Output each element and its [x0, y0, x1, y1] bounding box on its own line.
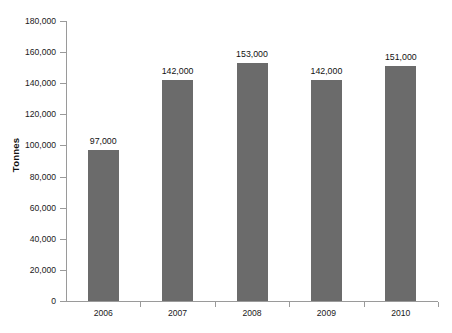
y-axis-tick-mark — [60, 177, 66, 178]
x-axis-tick-mark — [364, 302, 365, 307]
x-axis-tick-label: 2010 — [364, 309, 438, 318]
y-axis-tick-label: 0 — [4, 297, 56, 306]
y-axis-tick-mark — [60, 239, 66, 240]
y-axis-tick-label: 180,000 — [4, 17, 56, 26]
y-axis-tick-mark — [60, 83, 66, 84]
y-axis-tick-label: 60,000 — [4, 204, 56, 213]
bar-value-label: 142,000 — [289, 67, 363, 76]
y-axis-tick-label: 120,000 — [4, 110, 56, 119]
bar — [237, 63, 268, 301]
x-axis-tick-label: 2006 — [66, 309, 140, 318]
x-axis-tick-mark — [140, 302, 141, 307]
y-axis-line — [66, 21, 67, 302]
y-axis-tick-label: 100,000 — [4, 141, 56, 150]
bar — [88, 150, 119, 301]
y-axis-tick-label: 140,000 — [4, 79, 56, 88]
y-axis-tick-mark — [60, 270, 66, 271]
bar-value-label: 153,000 — [215, 50, 289, 59]
bar-chart: Tonnes 020,00040,00060,00080,000100,0001… — [0, 0, 452, 333]
y-axis-tick-label: 160,000 — [4, 48, 56, 57]
x-axis-line — [66, 301, 438, 302]
x-axis-tick-mark — [438, 302, 439, 307]
y-axis-tick-mark — [60, 52, 66, 53]
y-axis-tick-mark — [60, 301, 66, 302]
x-axis-tick-label: 2009 — [289, 309, 363, 318]
y-axis-tick-label: 80,000 — [4, 173, 56, 182]
y-axis-tick-label: 20,000 — [4, 266, 56, 275]
x-axis-tick-label: 2008 — [215, 309, 289, 318]
bar — [311, 80, 342, 301]
x-axis-tick-mark — [289, 302, 290, 307]
bar-value-label: 142,000 — [141, 67, 215, 76]
x-axis-tick-label: 2007 — [141, 309, 215, 318]
x-axis-tick-mark — [215, 302, 216, 307]
y-axis-tick-mark — [60, 21, 66, 22]
bar — [385, 66, 416, 301]
bar-value-label: 151,000 — [364, 53, 438, 62]
y-axis-tick-label: 40,000 — [4, 235, 56, 244]
y-axis-tick-mark — [60, 145, 66, 146]
bar-value-label: 97,000 — [66, 137, 140, 146]
y-axis-tick-mark — [60, 114, 66, 115]
y-axis-tick-mark — [60, 208, 66, 209]
bar — [162, 80, 193, 301]
